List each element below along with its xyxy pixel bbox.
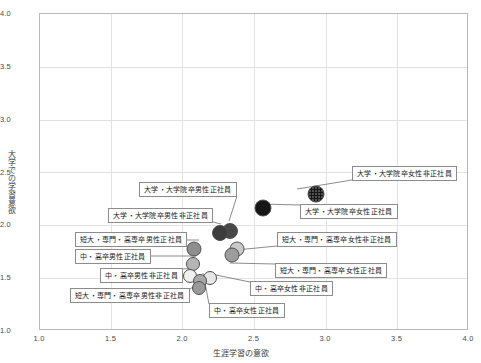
y-tick-label: 2.5 bbox=[0, 167, 11, 176]
scatter-chart-figure: 大学での学習意欲 大学・大学院卒女性非正社員大学・大学院卒女性正社員大学・大学院… bbox=[0, 0, 481, 363]
callout-college-male-nonregular: 短大・専門・高専卒男性非正社員 bbox=[70, 288, 190, 303]
callout-univ-female-nonregular: 大学・大学院卒女性非正社員 bbox=[352, 166, 457, 181]
gridline-y bbox=[40, 225, 467, 226]
callout-univ-male-nonregular: 大学・大学院卒男性非正社員 bbox=[108, 208, 213, 223]
y-tick-label: 1.0 bbox=[0, 326, 11, 335]
gridline-y bbox=[40, 67, 467, 68]
callout-hs-male-regular: 中・高卒男性正社員 bbox=[75, 249, 151, 264]
x-tick-label: 3.0 bbox=[319, 334, 330, 343]
x-tick-label: 4.0 bbox=[462, 334, 473, 343]
x-tick-label: 1.5 bbox=[105, 334, 116, 343]
callout-hs-female-nonregular: 中・高卒女性非正社員 bbox=[250, 281, 333, 296]
callout-hs-female-regular: 中・高卒女性正社員 bbox=[209, 303, 285, 318]
callout-univ-male-regular: 大学・大学院卒男性正社員 bbox=[139, 182, 237, 197]
x-tick-label: 3.5 bbox=[391, 334, 402, 343]
y-tick-label: 2.0 bbox=[0, 220, 11, 229]
callout-college-male-regular: 短大・専門・高専卒男性正社員 bbox=[75, 232, 187, 247]
gridline-y bbox=[40, 120, 467, 121]
y-tick-label: 3.0 bbox=[0, 114, 11, 123]
y-axis-title: 大学での学習意欲 bbox=[4, 0, 18, 363]
data-point bbox=[224, 247, 239, 262]
data-point bbox=[307, 185, 324, 202]
data-point bbox=[187, 241, 202, 256]
x-tick-label: 2.0 bbox=[176, 334, 187, 343]
x-tick-label: 1.0 bbox=[33, 334, 44, 343]
data-point bbox=[192, 281, 206, 295]
callout-college-female-nonregular: 短大・専門・高専卒女性非正社員 bbox=[277, 232, 397, 247]
callout-hs-male-nonregular: 中・高卒男性非正社員 bbox=[100, 268, 183, 283]
callout-college-female-regular: 短大・専門・高専卒女性正社員 bbox=[275, 263, 387, 278]
data-point bbox=[212, 225, 228, 241]
y-tick-label: 3.5 bbox=[0, 61, 11, 70]
y-tick-label: 1.5 bbox=[0, 273, 11, 282]
y-tick-label: 4.0 bbox=[0, 9, 11, 18]
callout-univ-female-regular: 大学・大学院卒女性正社員 bbox=[300, 204, 398, 219]
x-axis-title: 生涯学習の意欲 bbox=[0, 347, 481, 358]
x-tick-label: 2.5 bbox=[248, 334, 259, 343]
data-point bbox=[255, 200, 272, 217]
